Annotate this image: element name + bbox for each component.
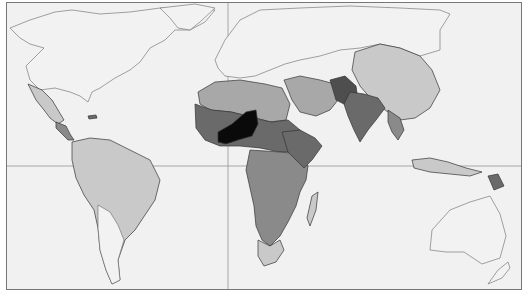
central-america [56, 122, 74, 140]
papua-new-guinea [488, 174, 504, 190]
australia [430, 196, 506, 264]
middle-east [284, 76, 338, 116]
world-map [0, 0, 529, 298]
new-zealand [488, 262, 510, 284]
indonesia [412, 158, 482, 176]
mexico [28, 84, 64, 124]
madagascar [307, 192, 318, 226]
india [344, 92, 385, 142]
caribbean-haiti [88, 115, 97, 119]
central-africa [246, 150, 308, 246]
